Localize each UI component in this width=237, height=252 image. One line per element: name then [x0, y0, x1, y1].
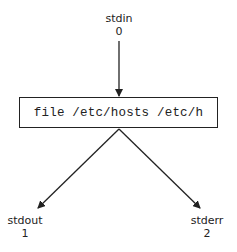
process-box: file /etc/hosts /etc/h [19, 97, 218, 128]
stdin-name: stdin [99, 12, 139, 25]
stdin-label: stdin 0 [99, 12, 139, 38]
stderr-name: stderr [187, 214, 227, 227]
stdout-name: stdout [5, 214, 45, 227]
stdout-label: stdout 1 [5, 214, 45, 240]
stderr-fd: 2 [187, 227, 227, 240]
stdout-arrow [38, 129, 119, 208]
stdin-fd: 0 [99, 25, 139, 38]
process-command: file /etc/hosts /etc/h [34, 106, 203, 120]
stderr-arrow [119, 129, 200, 208]
stdout-fd: 1 [5, 227, 45, 240]
stderr-label: stderr 2 [187, 214, 227, 240]
